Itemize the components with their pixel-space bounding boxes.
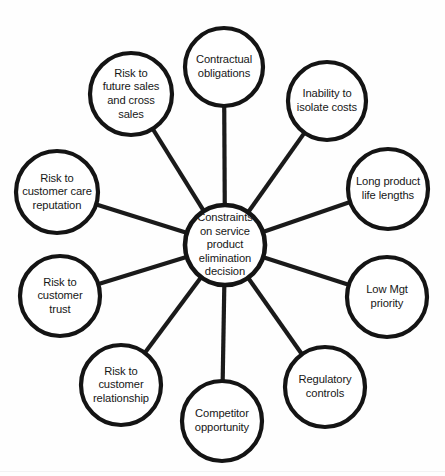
spoke-line-competitor-opportunity (223, 282, 225, 384)
spoke-line-inability-to-isolate-costs (246, 130, 306, 214)
spoke-line-low-mgt-priority (260, 256, 352, 285)
spoke-line-risk-to-customer-care-reputation (93, 203, 189, 233)
node-circle-long-product-life-lengths[interactable] (348, 149, 428, 229)
spoke-line-risk-to-future-sales-and-cross-sales (151, 126, 205, 213)
node-circle-risk-to-customer-relationship[interactable] (81, 345, 161, 425)
spoke-line-risk-to-customer-relationship (143, 275, 203, 356)
spoke-line-long-product-life-lengths (260, 201, 353, 233)
node-circle-center[interactable] (185, 205, 265, 285)
node-circle-inability-to-isolate-costs[interactable] (288, 62, 366, 140)
node-circle-regulatory-controls[interactable] (285, 347, 365, 427)
node-circle-low-mgt-priority[interactable] (347, 257, 427, 337)
node-circle-risk-to-future-sales-and-cross-sales[interactable] (90, 53, 172, 135)
node-circle-contractual-obligations[interactable] (185, 28, 263, 106)
node-circle-risk-to-customer-care-reputation[interactable] (16, 151, 98, 233)
spoke-line-contractual-obligations (224, 103, 225, 208)
nodes-layer (16, 28, 428, 461)
spoke-line-regulatory-controls (246, 275, 303, 356)
spoke-line-risk-to-customer-trust (95, 256, 189, 285)
node-circle-risk-to-customer-trust[interactable] (20, 256, 100, 336)
page-baseline-artifact (0, 471, 445, 472)
diagram-canvas (0, 0, 445, 476)
spider-diagram: Contractual obligationsInability to isol… (0, 0, 445, 476)
node-circle-competitor-opportunity[interactable] (182, 381, 262, 461)
